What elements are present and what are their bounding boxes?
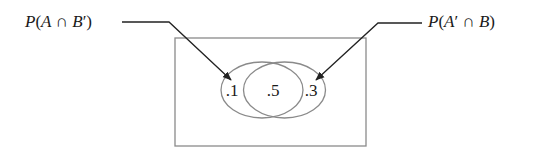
left-leader-arrow (122, 22, 231, 80)
prob-symbol: P (24, 12, 35, 31)
region-b-only-value: .3 (305, 81, 318, 100)
set-b-symbol: B (72, 12, 83, 31)
set-a-symbol: A (443, 12, 455, 31)
right-leader-arrow (316, 23, 422, 80)
venn-diagram-canvas: .1 .5 .3 P(A ∩ B′) P(A′ ∩ B) (0, 0, 548, 157)
region-intersection-value: .5 (267, 81, 280, 100)
set-b-symbol: B (479, 12, 490, 31)
right-callout-label: P(A′ ∩ B) (427, 12, 495, 31)
left-callout-label: P(A ∩ B′) (24, 12, 92, 31)
venn-diagram-figure: .1 .5 .3 P(A ∩ B′) P(A′ ∩ B) (0, 0, 548, 157)
close-paren: ) (489, 12, 495, 31)
region-a-only-value: .1 (226, 81, 239, 100)
prob-symbol: P (427, 12, 438, 31)
intersection-symbol: ∩ (51, 12, 72, 31)
set-a-symbol: A (40, 12, 52, 31)
close-paren: ) (86, 12, 92, 31)
intersection-symbol: ∩ (458, 12, 479, 31)
